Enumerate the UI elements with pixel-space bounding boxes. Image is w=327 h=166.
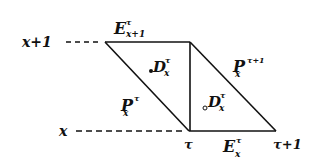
svg-text:τ: τ <box>126 17 132 27</box>
svg-text:τ+1: τ+1 <box>247 55 265 65</box>
svg-text:τ: τ <box>165 55 171 65</box>
region-label-d-lower: D τ x <box>203 90 226 113</box>
age-lower-label: x <box>58 123 68 139</box>
svg-text:τ: τ <box>236 135 242 145</box>
lexis-diagram: x+1 x τ τ+1 E τ x+1 D τ x P τ x P τ+1 x … <box>0 0 327 166</box>
svg-text:x: x <box>234 69 241 79</box>
svg-text:x: x <box>163 68 170 78</box>
svg-text:E: E <box>113 19 127 38</box>
svg-text:x+1: x+1 <box>125 29 145 39</box>
region-label-d-upper: D τ x <box>149 55 171 78</box>
time-start-label: τ <box>184 137 193 152</box>
svg-text:x: x <box>218 103 225 113</box>
region-label-e-top: E τ x+1 <box>113 17 145 39</box>
svg-text:x: x <box>234 149 241 159</box>
age-upper-label: x+1 <box>21 34 52 50</box>
left-diagonal <box>105 42 189 131</box>
time-end-label: τ+1 <box>273 137 302 152</box>
region-label-p-left: P τ x <box>120 93 140 118</box>
region-label-p-right: P τ+1 x <box>232 55 265 79</box>
svg-text:E: E <box>222 137 236 156</box>
svg-text:τ: τ <box>220 90 226 100</box>
svg-text:τ: τ <box>134 93 140 103</box>
svg-text:x: x <box>122 108 129 118</box>
region-label-e-bottom: E τ x <box>222 135 242 159</box>
